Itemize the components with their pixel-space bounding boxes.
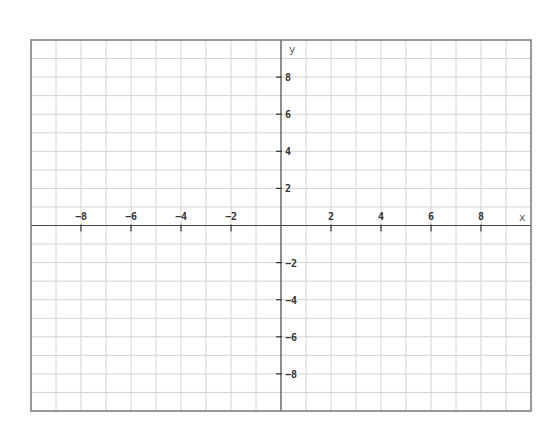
x-tick-label: 6: [428, 211, 434, 222]
x-tick-label: 8: [478, 211, 484, 222]
x-tick-label: −4: [175, 211, 187, 222]
x-tick-label: −2: [225, 211, 237, 222]
y-tick-label: 4: [285, 146, 291, 157]
x-tick-label: −6: [125, 211, 137, 222]
y-tick-label: 8: [285, 72, 291, 83]
y-tick-label: 2: [285, 183, 291, 194]
x-tick-label: 2: [328, 211, 334, 222]
x-tick-label: 4: [378, 211, 384, 222]
x-tick-label: −8: [75, 211, 87, 222]
coordinate-plane: −8−6−4−224688642−2−4−6−8 x y: [0, 0, 560, 439]
y-tick-label: −4: [285, 295, 297, 306]
y-tick-label: −6: [285, 332, 297, 343]
y-tick-label: 6: [285, 109, 291, 120]
y-tick-label: −2: [285, 258, 297, 269]
y-axis-label: y: [289, 43, 296, 56]
x-axis-label: x: [519, 211, 526, 224]
y-tick-label: −8: [285, 369, 297, 380]
